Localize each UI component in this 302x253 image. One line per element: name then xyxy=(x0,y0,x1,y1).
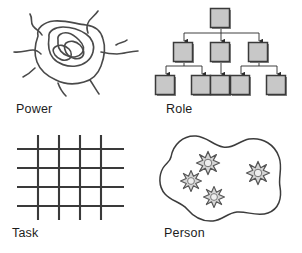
tree-node-leaf-2 xyxy=(192,76,211,95)
tree-node-leaf-5 xyxy=(267,76,286,95)
quadrant-task: Task xyxy=(0,127,151,253)
tree-node-mid-3 xyxy=(249,43,268,62)
star-glyph xyxy=(181,171,202,192)
blob-with-stars-icon xyxy=(151,127,302,230)
tangled-network-scribble-icon xyxy=(0,0,151,103)
quadrant-role: Role xyxy=(151,0,302,127)
quadrant-label-task: Task xyxy=(12,227,39,240)
hierarchy-tree-icon xyxy=(151,0,302,103)
quadrant-label-power: Power xyxy=(16,103,52,116)
tree-node-leaf-4 xyxy=(231,76,250,95)
quadrant-label-person: Person xyxy=(164,227,205,240)
tree-node-mid-1 xyxy=(174,43,193,62)
star-glyph xyxy=(204,187,225,208)
quadrant-person: Person xyxy=(151,127,302,253)
tree-node-leaf-3 xyxy=(211,76,230,95)
four-quadrant-figure: Power xyxy=(0,0,302,253)
quadrant-label-role: Role xyxy=(166,103,193,116)
star-glyph xyxy=(196,151,219,174)
quadrant-power: Power xyxy=(0,0,151,127)
tree-node-mid-2 xyxy=(211,43,230,62)
star-glyph xyxy=(246,161,269,184)
tree-node-root xyxy=(211,9,230,28)
tree-node-leaf-1 xyxy=(156,76,175,95)
grid-lattice-icon xyxy=(0,127,151,230)
